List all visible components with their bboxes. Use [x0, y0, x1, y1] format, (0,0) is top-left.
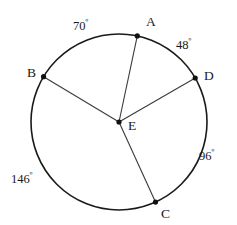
circle-diagram: [0, 0, 237, 225]
point-C-dot: [153, 199, 158, 204]
degree-symbol-icon: º: [86, 17, 89, 27]
arc-measure-AD: 48º: [176, 39, 191, 52]
arc-measure-AB: 70º: [73, 20, 88, 33]
point-A-dot: [135, 33, 140, 38]
arc-measure-AD-value: 48: [176, 38, 189, 52]
radius-EC: [119, 122, 155, 202]
degree-symbol-icon: º: [189, 36, 192, 46]
point-label-D: D: [204, 69, 214, 83]
degree-symbol-icon: º: [212, 147, 215, 157]
point-label-C: C: [161, 207, 170, 221]
arc-measure-AB-value: 70: [73, 19, 86, 33]
point-label-B: B: [27, 66, 36, 80]
arc-measure-DC: 96º: [199, 150, 214, 163]
arc-measure-CB-value: 146: [11, 172, 30, 186]
arc-measure-CB: 146º: [11, 173, 32, 186]
point-label-A: A: [146, 15, 156, 29]
point-D-dot: [193, 75, 198, 80]
radius-ED: [119, 78, 195, 122]
point-E-dot: [116, 119, 121, 124]
radius-EA: [119, 36, 137, 122]
arc-measure-DC-value: 96: [199, 149, 212, 163]
point-B-dot: [41, 74, 46, 79]
degree-symbol-icon: º: [30, 170, 33, 180]
radius-EB: [44, 77, 119, 122]
point-label-E: E: [128, 119, 136, 133]
